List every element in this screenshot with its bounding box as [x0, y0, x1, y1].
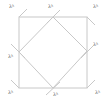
label-bottom-left: λᵏ [8, 90, 13, 95]
square-diagram [0, 0, 104, 102]
label-top-right: λᵏ [93, 4, 98, 9]
label-top-left: λᵏ [9, 4, 14, 9]
label-bottom-mid: λᵏ [53, 92, 58, 97]
tick-bottom-right [87, 80, 95, 88]
inner-diamond [19, 17, 87, 88]
label-mid-left: λᵏ [8, 54, 13, 59]
tick-top-right [87, 17, 95, 25]
label-top-mid: λᵏ [48, 4, 53, 9]
tick-top-left [19, 9, 27, 17]
label-mid-right: λᵏ [93, 42, 98, 47]
tick-mid-left [11, 44, 25, 58]
label-bottom-right: λᵏ [95, 90, 100, 95]
outer-square [19, 17, 87, 88]
tick-bottom-left [11, 80, 19, 88]
